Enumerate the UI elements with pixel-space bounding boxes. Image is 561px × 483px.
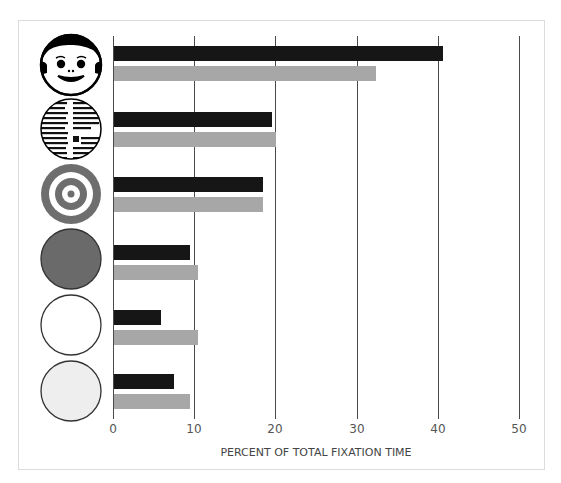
light-gray-disk-icon <box>39 359 103 423</box>
bar-white-disk-black <box>114 310 161 325</box>
gridline-20 <box>275 36 276 419</box>
bar-light-gray-disk-black <box>114 374 174 389</box>
gridline-30 <box>357 36 358 419</box>
face-icon <box>39 33 103 97</box>
white-disk-icon <box>39 293 103 357</box>
bar-printed-text-gray <box>114 132 276 147</box>
gridline-50 <box>519 36 520 419</box>
x-axis-title: PERCENT OF TOTAL FIXATION TIME <box>113 446 519 459</box>
x-tick-40: 40 <box>430 422 445 436</box>
bullseye-icon <box>39 162 103 226</box>
x-tick-50: 50 <box>511 422 526 436</box>
x-tick-10: 10 <box>186 422 201 436</box>
gridline-40 <box>438 36 439 419</box>
gridline-10 <box>194 36 195 419</box>
bar-printed-text-black <box>114 112 272 127</box>
bar-light-gray-disk-gray <box>114 394 190 409</box>
gridline-0 <box>113 36 114 419</box>
bar-bullseye-target-gray <box>114 197 263 212</box>
x-tick-30: 30 <box>349 422 364 436</box>
printed-text-icon <box>39 97 103 161</box>
bar-face-gray <box>114 66 376 81</box>
dark-gray-disk-icon <box>39 227 103 291</box>
bar-face-black <box>114 46 443 61</box>
x-tick-20: 20 <box>267 422 282 436</box>
bar-dark-gray-disk-gray <box>114 265 198 280</box>
bar-white-disk-gray <box>114 330 198 345</box>
bar-dark-gray-disk-black <box>114 245 190 260</box>
bar-bullseye-target-black <box>114 177 263 192</box>
x-tick-0: 0 <box>109 422 117 436</box>
